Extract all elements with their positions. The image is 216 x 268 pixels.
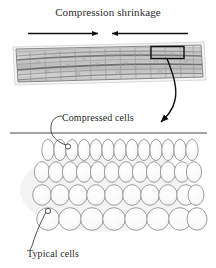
label-compressed-cells: Compressed cells xyxy=(62,112,134,123)
label-typical-cells: Typical cells xyxy=(27,248,79,259)
marker-typical-cell xyxy=(45,208,50,213)
compression-shrinkage-figure xyxy=(0,0,216,268)
cell-diagram xyxy=(20,116,207,250)
cell-row-typical-4 xyxy=(37,208,207,231)
marker-compressed-cell xyxy=(65,144,70,149)
title-compression-shrinkage: Compression shrinkage xyxy=(55,6,161,18)
timber-cross-section xyxy=(13,42,206,85)
